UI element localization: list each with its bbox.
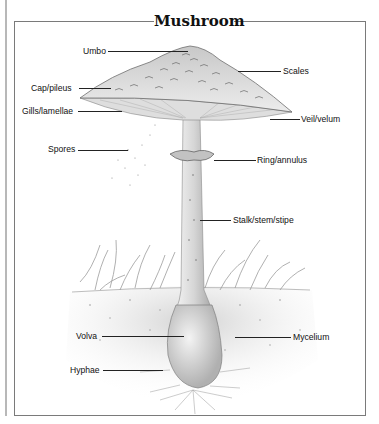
stem — [176, 118, 212, 310]
label-mycelium: Mycelium — [293, 332, 329, 342]
leader-scales — [238, 71, 281, 72]
leader-veil — [270, 119, 300, 120]
label-spores: Spores — [48, 144, 75, 154]
label-cap-pileus: Cap/pileus — [31, 83, 72, 93]
leader-volva — [102, 336, 184, 337]
leader-ring — [214, 160, 256, 161]
leader-umbo — [108, 51, 188, 52]
leader-mycelium — [235, 337, 291, 338]
spores — [111, 124, 155, 185]
label-scales: Scales — [283, 66, 309, 76]
leader-gills — [78, 111, 122, 112]
label-umbo: Umbo — [83, 46, 106, 56]
leader-cap — [79, 88, 111, 89]
leader-spores — [78, 150, 128, 151]
label-gills-lamellae: Gills/lamellae — [22, 106, 73, 116]
leader-hyphae — [103, 370, 163, 371]
leader-stalk — [200, 220, 231, 221]
label-volva: Volva — [76, 331, 97, 341]
label-veil-velum: Veil/velum — [301, 114, 340, 124]
ring-annulus — [170, 150, 214, 160]
label-stalk-stem-stipe: Stalk/stem/stipe — [233, 215, 294, 225]
label-hyphae: Hyphae — [70, 365, 100, 375]
mushroom-illustration — [0, 0, 379, 424]
label-ring-annulus: Ring/annulus — [257, 155, 307, 165]
